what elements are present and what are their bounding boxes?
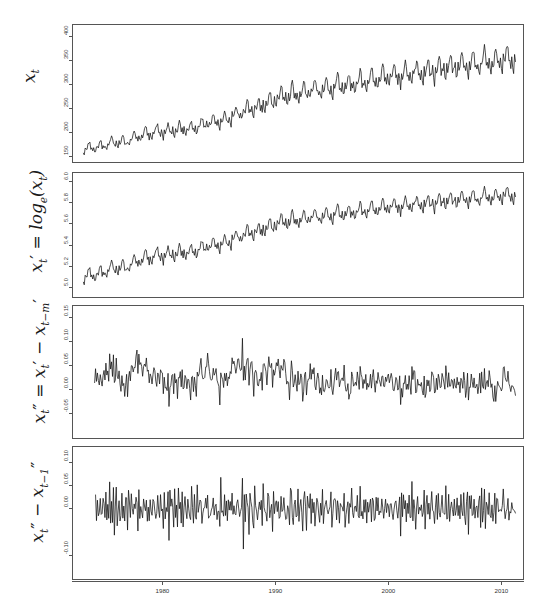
xtick-label: 1990 <box>269 587 283 594</box>
xtick-label: 2000 <box>382 587 396 594</box>
xtick-mark <box>162 582 163 585</box>
series-polyline <box>95 338 516 406</box>
xtick-label: 1980 <box>156 587 170 594</box>
xtick-mark <box>501 582 502 585</box>
panel-log-series: xt′ = loge(xt) 5.05.25.45.65.86.0 <box>0 170 555 300</box>
panel-1-series-line <box>0 0 555 170</box>
series-polyline <box>83 44 515 154</box>
series-polyline <box>96 477 516 549</box>
panel-2-series-line <box>0 170 555 300</box>
panel-3-series-line <box>0 300 555 443</box>
xtick-mark <box>275 582 276 585</box>
panel-seasonal-difference-series: xt″ = xt′ − xt−m′ -0.050.000.050.100.15 <box>0 300 555 443</box>
panel-first-difference-series: xt″ − xt−1″ -0.100.000.050.10 1980199020… <box>0 443 555 614</box>
panel-level-series: xt 150200250300350400 <box>0 0 555 170</box>
x-axis-line <box>72 581 524 582</box>
xtick-label: 2010 <box>495 587 509 594</box>
xtick-mark <box>388 582 389 585</box>
series-polyline <box>83 186 515 285</box>
timeseries-figure: xt 150200250300350400 xt′ = loge(xt) 5.0… <box>0 0 555 614</box>
